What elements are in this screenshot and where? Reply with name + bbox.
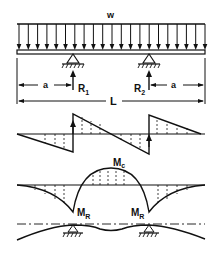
shear-diagram bbox=[17, 114, 205, 154]
left-support bbox=[62, 54, 84, 64]
right-support bbox=[138, 54, 160, 64]
dimension-a-right-label: a bbox=[171, 80, 177, 90]
distributed-load bbox=[17, 24, 208, 50]
beam-diagram: w R1 R2 a a bbox=[0, 0, 218, 263]
reaction-arrow-r1 bbox=[70, 70, 76, 90]
beam bbox=[17, 50, 205, 54]
reaction-label-r1: R1 bbox=[78, 83, 89, 96]
dimension-a-right bbox=[150, 83, 204, 87]
dimension-a-left-label: a bbox=[43, 80, 49, 90]
load-label: w bbox=[106, 10, 115, 20]
moment-diagram bbox=[17, 168, 205, 212]
deflection-diagram bbox=[17, 224, 205, 240]
moment-mc-label: Mc bbox=[113, 157, 125, 169]
moment-mr-left-label: MR bbox=[77, 207, 90, 220]
dimension-L-label: L bbox=[110, 95, 117, 107]
reaction-label-r2: R2 bbox=[134, 83, 145, 96]
reaction-arrow-r2 bbox=[146, 70, 152, 90]
moment-mr-right-label: MR bbox=[131, 207, 144, 220]
